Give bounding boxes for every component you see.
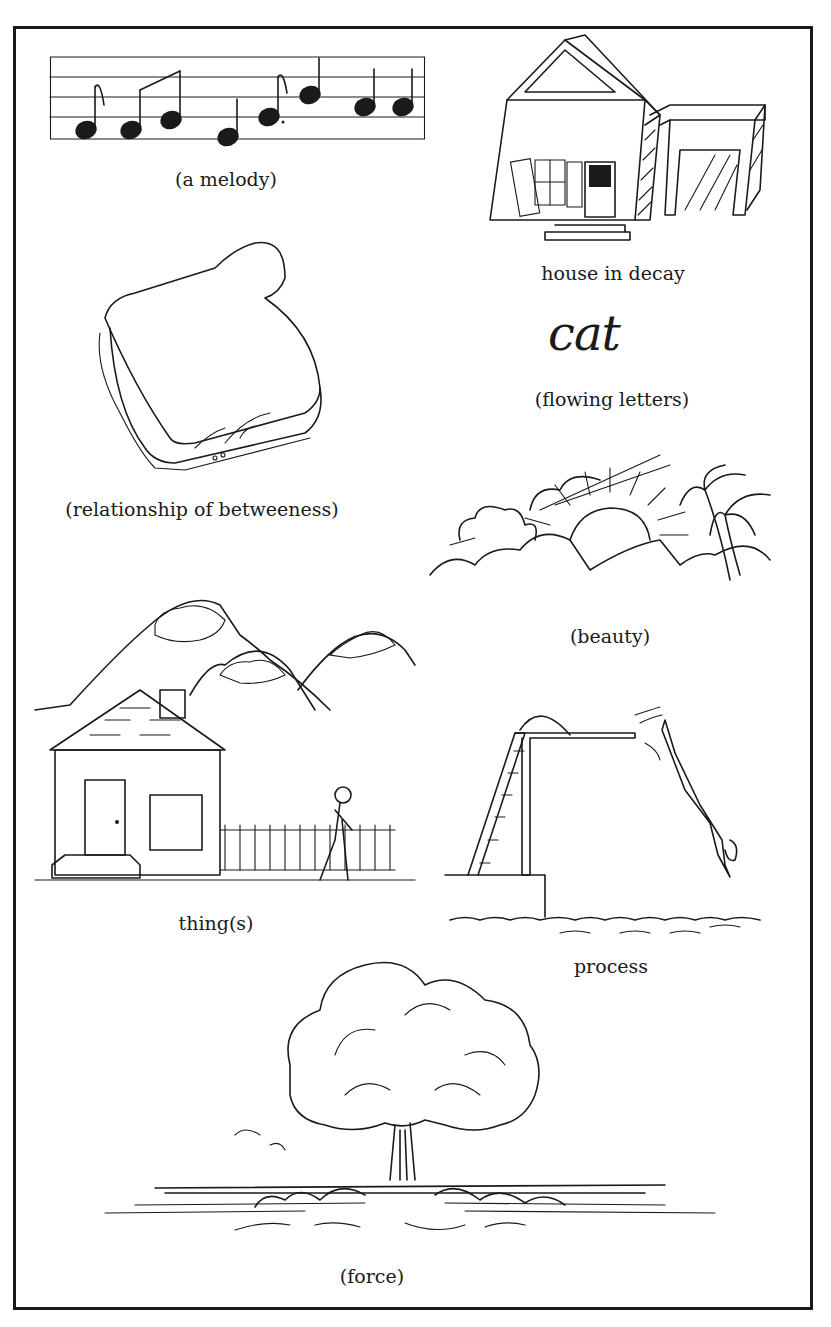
caption-things: thing(s) bbox=[179, 912, 254, 934]
house-mountains-icon bbox=[30, 590, 420, 890]
sandwich-icon bbox=[95, 238, 335, 478]
music-staff-icon bbox=[50, 55, 430, 155]
caption-force: (force) bbox=[340, 1265, 404, 1287]
decaying-house-icon bbox=[485, 50, 775, 245]
caption-melody: (a melody) bbox=[175, 168, 277, 190]
mushroom-cloud-icon bbox=[105, 955, 715, 1240]
caption-flowing-letters: (flowing letters) bbox=[535, 388, 689, 410]
caption-beauty: (beauty) bbox=[570, 625, 650, 647]
cursive-word-icon: cat bbox=[548, 305, 620, 361]
caption-sandwich: (relationship of betweeness) bbox=[65, 498, 339, 520]
caption-house-in-decay: house in decay bbox=[541, 262, 684, 284]
diving-board-icon bbox=[440, 705, 785, 945]
sunset-palm-icon bbox=[430, 450, 780, 590]
